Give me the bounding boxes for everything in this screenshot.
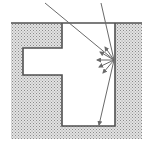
reflected-ray xyxy=(99,60,114,125)
substrate xyxy=(11,23,142,139)
diagram xyxy=(0,0,151,150)
